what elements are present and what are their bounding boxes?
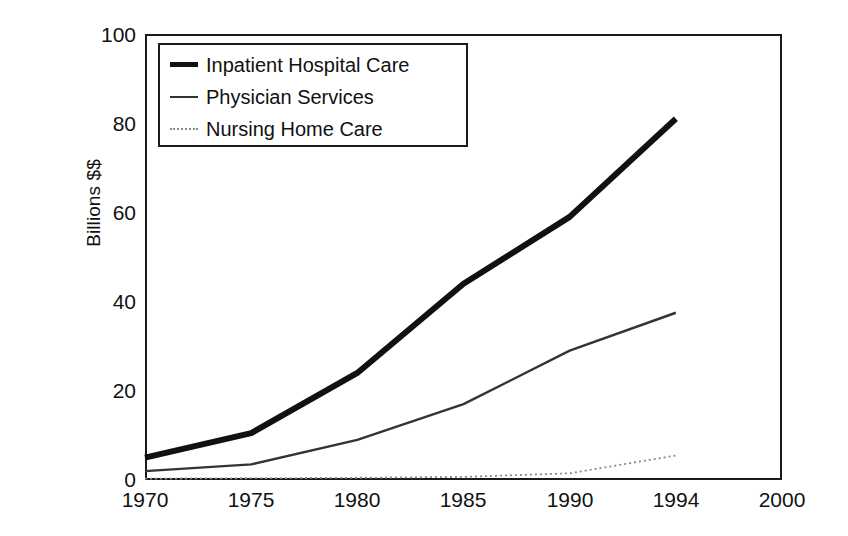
legend-label-physician-services: Physician Services xyxy=(206,87,374,107)
thin-line-swatch-icon xyxy=(169,89,199,105)
line-chart: Billions $$ 100 80 60 40 20 0 1970 1975 … xyxy=(0,0,848,536)
x-tick-label-1985: 1985 xyxy=(418,489,508,511)
legend-item-nursing-home-care: Nursing Home Care xyxy=(160,113,466,145)
x-tick-label-1994: 1994 xyxy=(631,489,721,511)
chart-legend: Inpatient Hospital Care Physician Servic… xyxy=(158,43,468,147)
thick-line-swatch-icon xyxy=(169,57,199,73)
legend-item-physician-services: Physician Services xyxy=(160,81,466,113)
x-tick-label-2000: 2000 xyxy=(737,489,827,511)
legend-item-inpatient-hospital-care: Inpatient Hospital Care xyxy=(160,49,466,81)
x-tick-label-1975: 1975 xyxy=(206,489,296,511)
x-tick-label-1990: 1990 xyxy=(525,489,615,511)
dotted-line-swatch-icon xyxy=(169,121,199,137)
legend-label-inpatient-hospital-care: Inpatient Hospital Care xyxy=(206,55,409,75)
x-tick-label-1970: 1970 xyxy=(100,489,190,511)
legend-label-nursing-home-care: Nursing Home Care xyxy=(206,119,383,139)
x-tick-label-1980: 1980 xyxy=(312,489,402,511)
